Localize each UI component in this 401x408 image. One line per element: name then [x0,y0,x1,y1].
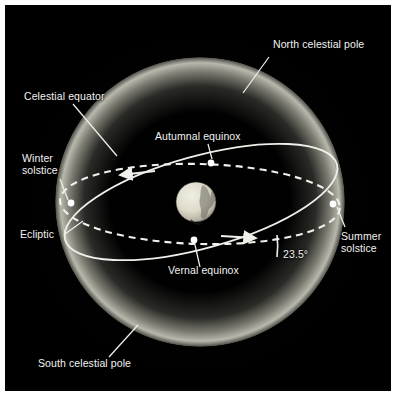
winter-solstice-point [68,200,75,207]
celestial-sphere-figure: North celestial pole Celestial equator W… [0,0,401,408]
autumnal-equinox-point [208,160,215,167]
summer-solstice-point [330,201,337,208]
tilt-angle-arc [277,235,278,257]
vernal-equinox-point [191,237,198,244]
celestial-sphere-graphic [5,5,391,391]
diagram-panel: North celestial pole Celestial equator W… [5,5,391,391]
